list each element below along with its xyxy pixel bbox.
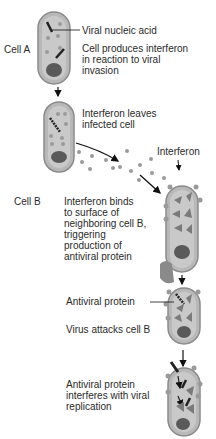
binds-label-6: antiviral protein	[64, 251, 132, 262]
cell-a	[38, 12, 80, 84]
produces-label-2: in reaction to viral	[82, 54, 160, 65]
cell-a-label: Cell A	[4, 44, 30, 55]
binds-label-2: to surface of	[64, 207, 119, 218]
binds-label-4: triggering	[64, 229, 106, 240]
leaves-label-2: infected cell	[82, 119, 135, 130]
interferon-label: Interferon	[157, 146, 200, 157]
cell-b-label: Cell B	[14, 196, 41, 207]
cell-b-bound	[164, 185, 203, 273]
cell-a-releasing	[44, 102, 74, 172]
nucleus-icon	[46, 63, 62, 77]
binds-label-1: Interferon binds	[64, 196, 134, 207]
cell-b-attacked	[150, 261, 201, 344]
produces-label-3: invasion	[82, 65, 119, 76]
virus-icon	[160, 261, 174, 283]
cell-b-protected	[166, 362, 203, 436]
virus-attacks-label: Virus attacks cell B	[66, 324, 150, 335]
viral-nucleic-acid-label: Viral nucleic acid	[82, 25, 157, 36]
released-interferon-dots	[77, 149, 166, 182]
antiviral-protein-label: Antiviral protein	[66, 296, 135, 307]
binds-label-5: production of	[64, 240, 122, 251]
interferes-label-3: replication	[66, 401, 112, 412]
binds-label-3: neighboring cell B,	[64, 218, 146, 229]
leaves-label-1: Interferon leaves	[82, 108, 157, 119]
interferes-label-2: interferes with viral	[66, 390, 149, 401]
interferes-label-1: Antiviral protein	[66, 379, 135, 390]
produces-label-1: Cell produces interferon	[82, 43, 188, 54]
